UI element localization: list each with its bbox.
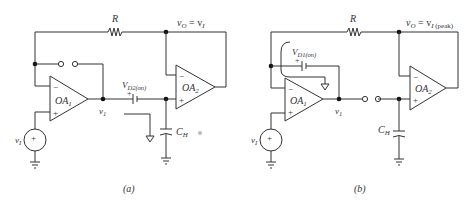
panel-b: R vO = vI (peak) + VD1(on) − + OA1 v1 − … (251, 13, 458, 195)
v1-label-b: v1 (335, 106, 342, 117)
oa1-minus-a: − (53, 82, 58, 92)
battery-label-a: VD2(on) (122, 80, 146, 92)
caption-a: (a) (123, 183, 135, 195)
current-arrow-b (281, 42, 325, 84)
oa2-minus-b: − (413, 72, 418, 82)
oa2-plus-a: + (179, 95, 184, 105)
resistor-label-a: R (111, 13, 118, 24)
v1-label-a: v1 (99, 106, 106, 117)
source-label-b: vI (251, 135, 258, 146)
oa2-label-a: OA2 (182, 82, 199, 95)
oa1-plus-a: + (53, 108, 58, 118)
arrow-head-b (321, 84, 329, 90)
switch-wire-a (35, 64, 103, 99)
output-label-b: vO = vI (peak) (406, 17, 454, 30)
source-plus-b: + (267, 133, 272, 143)
switch-contact-left-b (362, 96, 367, 101)
source-plus-a: + (31, 133, 36, 143)
ground-icon (30, 162, 40, 168)
oa1-minus-b: − (288, 84, 293, 94)
oa1-inverting-wire-a (35, 32, 50, 86)
switch-contact-left-a (58, 61, 63, 66)
ground-icon (161, 158, 171, 164)
oa2-plus-b: + (413, 95, 418, 105)
cap-label-b: CH (378, 124, 391, 137)
oa1-plus-b: + (288, 107, 293, 117)
peak-detector-diagram: R vO = vI − + OA1 + VD2(on) v1 − + OA2 (0, 0, 468, 209)
output-label-a: vO = vI (177, 17, 205, 30)
oa2-inverting-wire-b (399, 32, 410, 76)
switch-contact-right-a (72, 61, 77, 66)
source-wire-b (271, 113, 285, 162)
oa1-label-a: OA1 (55, 95, 72, 108)
feedback-wire-a (35, 28, 226, 87)
speck-artifact (198, 131, 202, 135)
resistor-label-b: R (349, 13, 356, 24)
oa2-minus-a: − (179, 71, 184, 81)
v1-node-b (337, 97, 342, 102)
oa1-inverting-wire-b (271, 32, 285, 88)
current-arrow-a (124, 114, 150, 136)
panel-a: R vO = vI − + OA1 + VD2(on) v1 − + OA2 (15, 13, 226, 195)
cap-label-a: CH (176, 126, 189, 139)
oa2-inverting-wire-a (166, 32, 176, 75)
v1-node-a (101, 97, 106, 102)
source-wire-a (35, 112, 50, 162)
source-label-a: vI (15, 135, 22, 146)
caption-b: (b) (354, 183, 366, 195)
ground-icon (394, 159, 404, 165)
ground-icon (266, 162, 276, 168)
arrow-head-a (146, 136, 154, 142)
